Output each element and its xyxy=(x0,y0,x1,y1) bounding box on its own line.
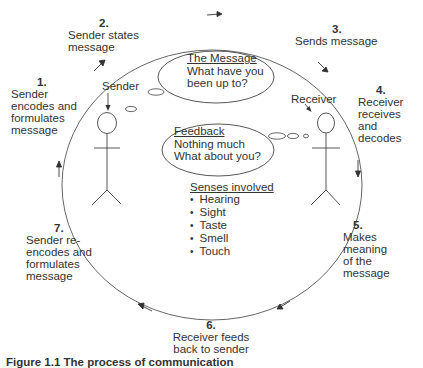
figure-caption: Figure 1.1 The process of communication xyxy=(6,356,234,368)
message-title: The Message xyxy=(187,52,257,64)
feedback-bubble-text: Feedback Nothing much What about you? xyxy=(174,125,261,163)
senses-list: Senses involved Hearing Sight Taste Smel… xyxy=(190,181,274,258)
feedback-thought-large xyxy=(269,133,286,139)
step-4-label: 4. Receiver receives and decodes xyxy=(358,84,423,144)
feedback-thought-medium xyxy=(288,133,299,138)
sense-item: Hearing xyxy=(190,193,274,206)
message-bubble-text: The Message What have you been up to? xyxy=(187,52,264,90)
step-7-label: 7. Sender re- encodes and formulates mes… xyxy=(26,222,92,282)
feedback-title: Feedback xyxy=(174,125,225,137)
sender-figure xyxy=(92,93,121,205)
feedback-thought-small xyxy=(304,134,309,138)
senses-title: Senses involved xyxy=(190,181,274,193)
step-6-label: 6. Receiver feeds back to sender xyxy=(166,319,256,355)
step-3-label: 3. Sends message xyxy=(295,23,377,47)
sense-item: Touch xyxy=(190,245,274,258)
receiver-figure xyxy=(305,104,340,205)
step-2-label: 2. Sender states message xyxy=(68,17,139,53)
sense-item: Sight xyxy=(190,206,274,219)
thought-bubble-tiny xyxy=(126,106,137,111)
receiver-label: Receiver xyxy=(291,93,336,105)
sense-item: Smell xyxy=(190,232,274,245)
sense-item: Taste xyxy=(190,219,274,232)
step-5-label: 5. Makes meaning of the message xyxy=(343,219,390,279)
step-1-label: 1. Sender encodes and formulates message xyxy=(11,76,77,136)
thought-bubble-small xyxy=(148,89,164,95)
sender-label: Sender xyxy=(102,80,139,92)
